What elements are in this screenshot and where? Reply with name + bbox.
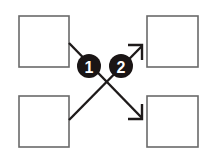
box-bottom-right [147, 96, 198, 147]
badge-1: 1 [77, 54, 101, 78]
badge-2: 2 [109, 54, 133, 78]
box-top-left [19, 16, 69, 67]
box-top-right [147, 16, 198, 67]
box-bottom-left [19, 96, 69, 147]
connector-1-line [69, 43, 142, 118]
badge-1-label: 1 [85, 59, 94, 76]
crossing-diagram: 1 2 [0, 0, 211, 158]
connector-2-line [69, 46, 142, 120]
badge-2-label: 2 [117, 59, 126, 76]
